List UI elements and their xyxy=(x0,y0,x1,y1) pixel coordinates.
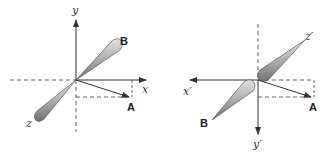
coordinate-transform-diagram: y x z B A z′ x′ y′ B A xyxy=(0,0,327,158)
left-point-a-label: A xyxy=(127,101,135,113)
right-vector-a xyxy=(258,80,311,97)
left-z-label: z xyxy=(25,117,32,130)
left-cone-z xyxy=(34,80,76,121)
right-y-prime-label: y′ xyxy=(252,138,262,151)
left-point-b-label: B xyxy=(120,35,128,47)
left-figure: y x z B A xyxy=(10,4,149,132)
right-point-a-label: A xyxy=(309,101,317,113)
right-figure: z′ x′ y′ B A xyxy=(183,24,317,151)
right-z-prime-label: z′ xyxy=(304,30,314,43)
right-cone-z-prime xyxy=(258,40,305,82)
left-vector-a xyxy=(76,80,129,97)
right-point-b-label: B xyxy=(200,117,208,129)
right-cone-b xyxy=(212,80,255,120)
left-cone-b xyxy=(76,39,122,80)
right-x-prime-label: x′ xyxy=(183,85,192,98)
left-x-label: x xyxy=(142,83,149,96)
left-y-label: y xyxy=(71,4,79,17)
